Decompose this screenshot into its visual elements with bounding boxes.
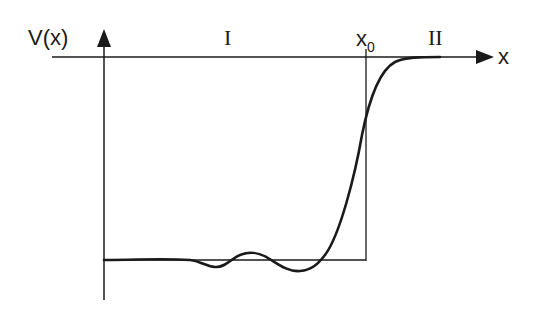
potential-diagram: V(x) x I II x0 (0, 0, 542, 316)
x-axis-arrow-icon (476, 50, 494, 64)
region-label-II: II (428, 25, 443, 50)
boundary-label-main: x (356, 26, 367, 51)
smooth-potential-curve (104, 57, 440, 271)
boundary-label: x0 (356, 26, 375, 55)
region-label-I: I (224, 25, 231, 50)
y-axis-label: V(x) (28, 25, 68, 50)
x-axis-label: x (498, 44, 509, 69)
boundary-label-subscript: 0 (367, 39, 375, 55)
y-axis-arrow-icon (97, 29, 111, 47)
